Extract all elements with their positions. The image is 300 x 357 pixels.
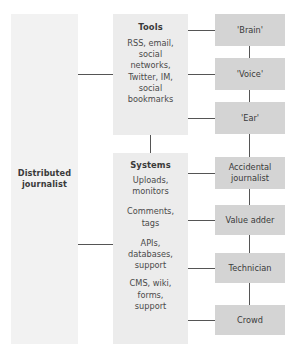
systems-item-line: APIs, [128, 238, 173, 249]
connector-distributed-to-systems [78, 244, 113, 245]
label-line-1: Distributed [18, 168, 71, 179]
connector-accidental-journalist-to-value-adder [249, 189, 250, 205]
label-line-2: journalist [18, 179, 71, 190]
systems-group-comments: Comments, tags [127, 206, 174, 228]
systems-item-line: CMS, wiki, [130, 278, 172, 289]
connector-tools-to-brain [188, 30, 215, 31]
tools-items: RSS, email, social networks, Twitter, IM… [127, 38, 173, 105]
systems-item-line: support [130, 301, 172, 312]
node-accidental-journalist-label: Accidental journalist [215, 162, 285, 184]
tools-item-line: social [127, 49, 173, 60]
connector-systems-to-accidental-journalist [188, 173, 215, 174]
node-value-adder-label: Value adder [223, 215, 278, 226]
connector-voice-to-ear [249, 90, 250, 102]
node-ear-label: 'Ear' [238, 113, 262, 124]
connector-tools-to-ear [188, 118, 215, 119]
node-technician-label: Technician [226, 263, 275, 274]
connector-brain-to-voice [249, 46, 250, 58]
node-systems[interactable]: Systems Uploads, monitors Comments, tags… [113, 153, 188, 344]
connector-ear-to-accidental-journalist [249, 134, 250, 157]
node-voice-label: 'Voice' [234, 69, 266, 80]
connector-systems-to-value-adder [188, 220, 215, 221]
connector-tools-to-voice [188, 74, 215, 75]
tools-item-line: networks, [127, 60, 173, 71]
connector-tools-to-systems [150, 135, 151, 153]
connector-systems-to-crowd [188, 320, 215, 321]
diagram-canvas: Distributed journalist Tools RSS, email,… [0, 0, 300, 357]
distributed-journalist-label: Distributed journalist [18, 168, 71, 190]
systems-group-apis: APIs, databases, support [128, 238, 173, 272]
systems-item-line: Uploads, [132, 175, 168, 186]
tools-item-line: RSS, email, [127, 38, 173, 49]
tools-item-line: bookmarks [127, 94, 173, 105]
systems-item-line: monitors [132, 186, 168, 197]
systems-item-line: Comments, [127, 206, 174, 217]
connector-technician-to-crowd [249, 283, 250, 305]
tools-heading: Tools [138, 22, 162, 33]
systems-heading: Systems [130, 160, 171, 171]
systems-item-line: support [128, 260, 173, 271]
node-brain-label: 'Brain' [234, 25, 266, 36]
node-voice[interactable]: 'Voice' [215, 58, 285, 90]
systems-group-cms: CMS, wiki, forms, support [130, 278, 172, 312]
tools-item-line: social [127, 83, 173, 94]
connector-distributed-to-tools [78, 74, 113, 75]
node-value-adder[interactable]: Value adder [215, 205, 285, 235]
node-ear[interactable]: 'Ear' [215, 102, 285, 134]
node-tools[interactable]: Tools RSS, email, social networks, Twitt… [113, 14, 188, 135]
systems-group-uploads: Uploads, monitors [132, 175, 168, 197]
node-distributed-journalist[interactable]: Distributed journalist [11, 14, 78, 344]
systems-item-line: databases, [128, 249, 173, 260]
connector-systems-to-technician [188, 268, 215, 269]
systems-item-line: tags [127, 218, 174, 229]
node-brain[interactable]: 'Brain' [215, 14, 285, 46]
node-accidental-journalist[interactable]: Accidental journalist [215, 157, 285, 189]
node-crowd[interactable]: Crowd [215, 305, 285, 335]
systems-item-line: forms, [130, 290, 172, 301]
node-crowd-label: Crowd [234, 315, 266, 326]
tools-item-line: Twitter, IM, [127, 72, 173, 83]
connector-value-adder-to-technician [249, 235, 250, 253]
node-technician[interactable]: Technician [215, 253, 285, 283]
